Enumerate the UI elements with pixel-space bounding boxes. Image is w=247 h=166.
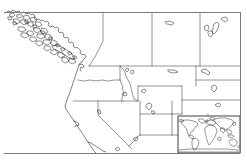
inset-frame <box>178 116 240 153</box>
world-inset <box>178 116 241 153</box>
map-figure: Western North America outline map with w… <box>0 0 247 166</box>
map-canvas <box>0 0 247 166</box>
